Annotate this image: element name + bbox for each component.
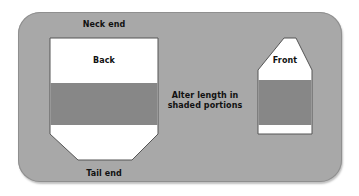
tail-end-label: Tail end [79,169,129,178]
back-label: Back [84,56,124,65]
back-shaded-portion [51,83,158,125]
instruction-line-2: shaded portions [165,101,245,110]
instruction-line-1: Alter length in [165,91,245,100]
front-piece [258,38,312,134]
front-shaded-portion [259,80,312,125]
neck-end-label: Neck end [79,20,129,29]
front-label: Front [265,56,305,65]
